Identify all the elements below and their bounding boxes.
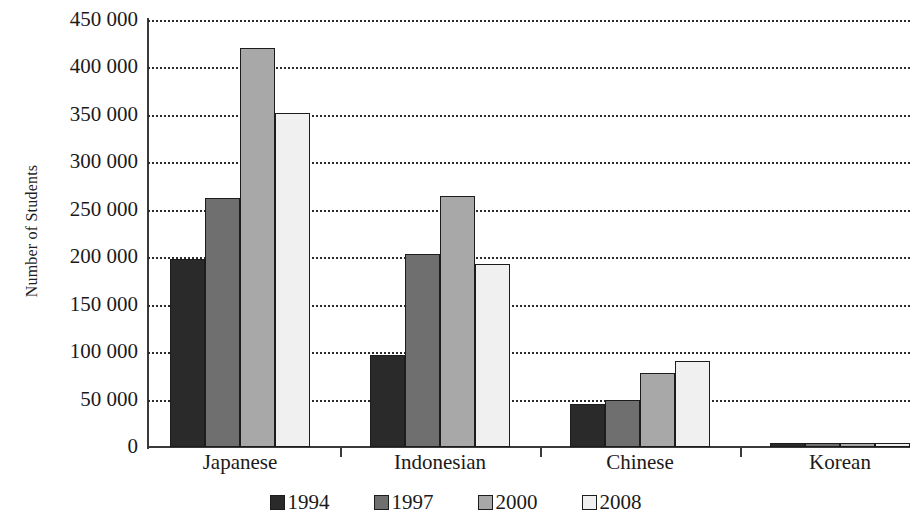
legend-label: 1997: [392, 492, 434, 513]
y-axis-title: Number of Students: [23, 111, 41, 351]
bar: [405, 254, 440, 447]
y-tick-label: 50 000: [0, 389, 138, 410]
y-tick-label: 100 000: [0, 341, 138, 362]
y-tick-label: 250 000: [0, 199, 138, 220]
y-tick-label: 350 000: [0, 104, 138, 125]
bar-group: [370, 20, 510, 447]
bar: [640, 373, 675, 447]
bar: [840, 443, 875, 447]
bar: [675, 361, 710, 447]
y-tick-label: 450 000: [0, 9, 138, 30]
bar: [570, 404, 605, 447]
legend-item[interactable]: 1997: [374, 492, 434, 513]
bar-chart: Number of Students 050 000100 000150 000…: [0, 0, 911, 520]
y-tick-label: 150 000: [0, 294, 138, 315]
y-tick-label: 400 000: [0, 56, 138, 77]
bar: [475, 264, 510, 447]
legend-swatch-icon: [478, 495, 493, 510]
legend-label: 1994: [288, 492, 330, 513]
y-tick-label: 300 000: [0, 151, 138, 172]
plot-area: [148, 20, 910, 447]
legend-label: 2008: [600, 492, 642, 513]
legend-swatch-icon: [374, 495, 389, 510]
chart-legend: 1994199720002008: [0, 492, 911, 513]
bar: [770, 443, 805, 447]
bar: [875, 443, 910, 447]
x-tick-label: Japanese: [140, 452, 340, 473]
bar: [370, 355, 405, 447]
x-tick-label: Chinese: [540, 452, 740, 473]
bar-group: [770, 20, 910, 447]
legend-swatch-icon: [270, 495, 285, 510]
x-tick-label: Indonesian: [340, 452, 540, 473]
bar-group: [570, 20, 710, 447]
bar: [240, 48, 275, 447]
bar: [440, 196, 475, 447]
y-tick-label: 0: [0, 436, 138, 457]
bar-group: [170, 20, 310, 447]
bar: [805, 443, 840, 447]
x-tick-label: Korean: [740, 452, 911, 473]
legend-item[interactable]: 2000: [478, 492, 538, 513]
y-tick-label: 200 000: [0, 246, 138, 267]
legend-label: 2000: [496, 492, 538, 513]
bar: [205, 198, 240, 447]
bar: [605, 400, 640, 447]
bar: [275, 113, 310, 447]
legend-swatch-icon: [582, 495, 597, 510]
bar: [170, 259, 205, 447]
legend-item[interactable]: 1994: [270, 492, 330, 513]
legend-item[interactable]: 2008: [582, 492, 642, 513]
